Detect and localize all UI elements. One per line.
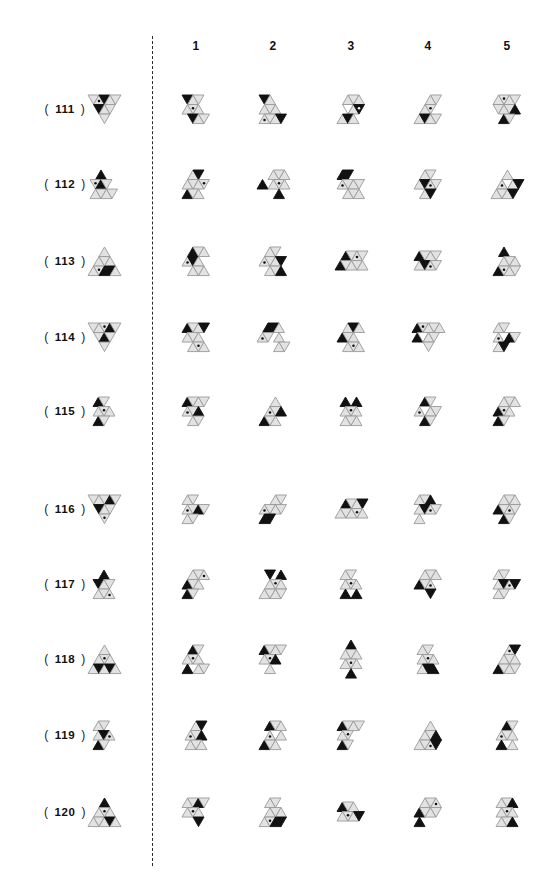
triangle-tile: [99, 645, 110, 655]
orientation-dot: [429, 509, 432, 512]
option-120-2[interactable]: [235, 774, 311, 850]
option-118-4[interactable]: [390, 621, 466, 697]
triangle-tile: [499, 247, 510, 257]
option-111-1[interactable]: [158, 71, 234, 147]
option-114-1[interactable]: [158, 299, 234, 375]
orientation-dot: [506, 810, 509, 813]
option-116-5[interactable]: [469, 471, 545, 547]
option-116-4[interactable]: [390, 471, 466, 547]
orientation-dot: [503, 409, 506, 412]
option-112-2[interactable]: [235, 146, 311, 222]
option-114-4[interactable]: [390, 299, 466, 375]
option-111-3[interactable]: [313, 71, 389, 147]
option-120-3[interactable]: [313, 774, 389, 850]
orientation-dot: [261, 337, 264, 340]
triangle-tile: [414, 817, 425, 827]
option-111-4[interactable]: [390, 71, 466, 147]
triangle-tile: [257, 179, 268, 189]
orientation-dot: [429, 744, 432, 747]
option-114-3[interactable]: [313, 299, 389, 375]
orientation-dot: [203, 182, 206, 185]
triangle-tile: [346, 669, 357, 679]
option-115-3[interactable]: [313, 373, 389, 449]
triangle-tile: [340, 589, 351, 599]
puzzle-row-119: (119): [0, 696, 555, 774]
triangle-tile: [496, 740, 507, 750]
orientation-dot: [274, 582, 277, 585]
option-118-3[interactable]: [313, 621, 389, 697]
puzzle-row-113: (113): [0, 222, 555, 300]
option-119-3[interactable]: [313, 697, 389, 773]
orientation-dot: [269, 411, 272, 414]
option-116-1[interactable]: [158, 471, 234, 547]
option-117-2[interactable]: [235, 546, 311, 622]
option-120-1[interactable]: [158, 774, 234, 850]
triangle-tile: [273, 189, 284, 199]
option-116-2[interactable]: [235, 471, 311, 547]
option-115-2[interactable]: [235, 373, 311, 449]
option-column-headers: 12345: [0, 38, 555, 60]
orientation-dot: [508, 649, 511, 652]
puzzle-row-111: (111): [0, 70, 555, 148]
reference-figure-112: [66, 146, 142, 222]
reference-figure-117: [66, 546, 142, 622]
orientation-dot: [269, 735, 272, 738]
option-117-5[interactable]: [469, 546, 545, 622]
option-111-2[interactable]: [235, 71, 311, 147]
option-117-3[interactable]: [313, 546, 389, 622]
option-112-1[interactable]: [158, 146, 234, 222]
option-112-5[interactable]: [469, 146, 545, 222]
option-118-2[interactable]: [235, 621, 311, 697]
orientation-dot: [108, 593, 111, 596]
orientation-dot: [192, 107, 195, 110]
option-112-4[interactable]: [390, 146, 466, 222]
orientation-dot: [497, 337, 500, 340]
option-119-1[interactable]: [158, 697, 234, 773]
option-113-3[interactable]: [313, 223, 389, 299]
option-115-5[interactable]: [469, 373, 545, 449]
triangle-tile: [425, 589, 436, 599]
orientation-dot: [192, 657, 195, 660]
option-114-2[interactable]: [235, 299, 311, 375]
option-115-4[interactable]: [390, 373, 466, 449]
row-label-open-paren: (: [44, 330, 49, 344]
option-113-5[interactable]: [469, 223, 545, 299]
option-118-1[interactable]: [158, 621, 234, 697]
option-112-3[interactable]: [313, 146, 389, 222]
row-label-open-paren: (: [44, 177, 49, 191]
option-column-header-3: 3: [331, 38, 371, 54]
option-120-5[interactable]: [469, 774, 545, 850]
triangle-tile: [351, 589, 362, 599]
option-119-2[interactable]: [235, 697, 311, 773]
option-117-4[interactable]: [390, 546, 466, 622]
orientation-dot: [94, 182, 97, 185]
orientation-dot: [189, 735, 192, 738]
option-115-1[interactable]: [158, 373, 234, 449]
reference-figure-120: [66, 774, 142, 850]
row-label-open-paren: (: [45, 102, 50, 116]
triangle-tile: [414, 514, 425, 524]
option-113-2[interactable]: [235, 223, 311, 299]
orientation-dot: [352, 344, 355, 347]
orientation-dot: [421, 325, 424, 328]
option-117-1[interactable]: [158, 546, 234, 622]
option-119-4[interactable]: [390, 697, 466, 773]
option-120-4[interactable]: [390, 774, 466, 850]
option-113-4[interactable]: [390, 223, 466, 299]
option-114-5[interactable]: [469, 299, 545, 375]
option-118-5[interactable]: [469, 621, 545, 697]
triangle-tile: [265, 570, 276, 580]
option-119-5[interactable]: [469, 697, 545, 773]
orientation-dot: [418, 411, 421, 414]
orientation-dot: [341, 184, 344, 187]
triangle-tile: [270, 397, 281, 407]
triangle-tile: [96, 170, 107, 180]
orientation-dot: [186, 411, 189, 414]
triangle-tile: [425, 721, 436, 731]
option-113-1[interactable]: [158, 223, 234, 299]
row-label-open-paren: (: [44, 254, 49, 268]
option-116-3[interactable]: [313, 471, 389, 547]
orientation-dot: [508, 509, 511, 512]
option-111-5[interactable]: [469, 71, 545, 147]
orientation-dot: [503, 268, 506, 271]
